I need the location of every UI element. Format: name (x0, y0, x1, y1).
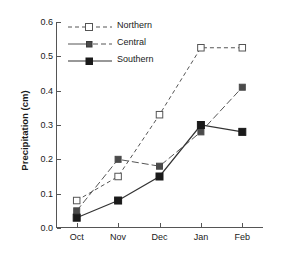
data-point-marker (239, 45, 246, 52)
data-point-marker (156, 111, 163, 118)
series-line (77, 125, 243, 218)
x-tick-label: Nov (110, 232, 126, 242)
y-tick-label: 0.1 (40, 189, 53, 199)
legend-key-southern (68, 53, 112, 65)
legend-item-central: Central (68, 33, 188, 50)
series-southern (73, 122, 246, 222)
legend-item-northern: Northern (68, 16, 188, 33)
data-point-marker (115, 173, 122, 180)
series-central (74, 84, 246, 214)
legend-label-southern: Southern (117, 54, 154, 64)
y-tick-label: 0.4 (40, 86, 53, 96)
y-tick-label: 0.0 (40, 223, 53, 233)
legend-key-central (68, 36, 112, 48)
data-point-marker (74, 208, 80, 214)
data-point-marker (198, 129, 204, 135)
series-line (77, 87, 243, 211)
y-tick-label: 0.2 (40, 154, 53, 164)
x-tick-label: Jan (194, 232, 209, 242)
data-point-marker (198, 45, 205, 52)
y-axis-title: Precipitation (cm) (16, 0, 32, 261)
y-tick-label: 0.3 (40, 120, 53, 130)
data-point-marker (73, 214, 80, 221)
x-tick-label: Dec (151, 232, 167, 242)
x-tick-label: Oct (70, 232, 84, 242)
x-tick-label: Feb (235, 232, 251, 242)
data-point-marker (115, 197, 122, 204)
data-point-marker (197, 122, 204, 129)
y-tick-label: 0.5 (40, 51, 53, 61)
chart-legend: Northern Central Southern (68, 16, 188, 67)
legend-key-northern (68, 19, 112, 31)
data-point-marker (239, 128, 246, 135)
data-point-marker (156, 173, 163, 180)
data-point-marker (115, 156, 121, 162)
precipitation-line-chart: Precipitation (cm) 0.00.10.20.30.40.50.6… (0, 0, 281, 261)
legend-label-northern: Northern (117, 20, 152, 30)
data-point-marker (157, 163, 163, 169)
y-tick-label: 0.6 (40, 17, 53, 27)
legend-label-central: Central (117, 37, 146, 47)
y-tick (57, 228, 61, 229)
legend-item-southern: Southern (68, 50, 188, 67)
data-point-marker (73, 197, 80, 204)
data-point-marker (239, 84, 245, 90)
